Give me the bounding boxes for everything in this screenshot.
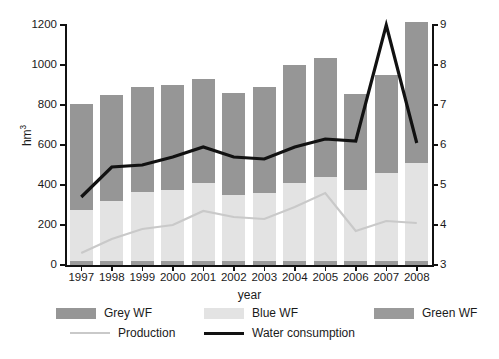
bar-segment-green-wf[interactable] [314, 261, 337, 265]
bar-segment-green-wf[interactable] [131, 261, 154, 265]
bar-segment-green-wf[interactable] [100, 261, 123, 265]
bar-segment-grey-wf[interactable] [161, 85, 184, 190]
bar-segment-blue-wf[interactable] [344, 190, 367, 261]
bar-segment-blue-wf[interactable] [222, 195, 245, 261]
bar-group[interactable] [70, 25, 93, 265]
x-axis-line [65, 265, 434, 267]
legend-row-swatches: Grey WFBlue WFGreen WF [56, 306, 456, 326]
bar-segment-green-wf[interactable] [192, 261, 215, 265]
y-axis-left-tick [60, 224, 65, 226]
y-axis-right-tick [433, 184, 438, 186]
y-axis-right-tick-label: 4 [440, 219, 446, 230]
bar-segment-blue-wf[interactable] [70, 210, 93, 261]
y-axis-right-tick [433, 24, 438, 26]
bar-segment-grey-wf[interactable] [131, 87, 154, 192]
y-axis-right-tick [433, 104, 438, 106]
y-axis-right-tick [433, 144, 438, 146]
y-axis-left-title-text: hm [20, 129, 34, 146]
bar-segment-green-wf[interactable] [375, 261, 398, 265]
y-axis-right-tick-label: 5 [440, 179, 446, 190]
y-axis-left-tick-label: 0 [0, 259, 57, 270]
bar-segment-grey-wf[interactable] [405, 22, 428, 163]
bar-segment-blue-wf[interactable] [131, 192, 154, 261]
bar-segment-green-wf[interactable] [70, 261, 93, 265]
bar-segment-grey-wf[interactable] [192, 79, 215, 183]
bar-segment-blue-wf[interactable] [100, 201, 123, 261]
bar-group[interactable] [283, 25, 306, 265]
bar-segment-blue-wf[interactable] [405, 163, 428, 261]
x-axis-title: year [0, 288, 499, 302]
bar-group[interactable] [253, 25, 276, 265]
legend-item-green-wf[interactable]: Green WF [374, 306, 477, 320]
legend-item-grey-wf[interactable]: Grey WF [56, 306, 152, 320]
legend-label: Blue WF [252, 306, 298, 320]
y-axis-left-tick-label: 400 [0, 179, 57, 190]
bar-segment-green-wf[interactable] [253, 261, 276, 265]
y-axis-left-title: hm3 [19, 106, 34, 166]
bar-group[interactable] [344, 25, 367, 265]
legend-item-water-consumption[interactable]: Water consumption [204, 326, 355, 340]
bar-segment-green-wf[interactable] [222, 261, 245, 265]
bar-segment-grey-wf[interactable] [344, 94, 367, 190]
y-axis-left-tick [60, 64, 65, 66]
bar-segment-blue-wf[interactable] [161, 190, 184, 261]
legend-label: Production [118, 326, 175, 340]
bar-group[interactable] [405, 25, 428, 265]
bar-group[interactable] [161, 25, 184, 265]
y-axis-right-tick [433, 264, 438, 266]
bar-group[interactable] [222, 25, 245, 265]
bar-segment-grey-wf[interactable] [375, 75, 398, 173]
bar-segment-grey-wf[interactable] [314, 58, 337, 177]
bar-segment-grey-wf[interactable] [70, 104, 93, 210]
bar-segment-blue-wf[interactable] [253, 193, 276, 261]
plot-area [66, 25, 432, 265]
x-axis-tick-label: 2008 [397, 272, 437, 283]
y-axis-left-tick [60, 24, 65, 26]
y-axis-right-tick [433, 64, 438, 66]
chart-legend: Grey WFBlue WFGreen WF ProductionWater c… [56, 306, 456, 346]
y-axis-left-tick [60, 184, 65, 186]
bar-segment-green-wf[interactable] [161, 261, 184, 265]
bar-segment-blue-wf[interactable] [192, 183, 215, 261]
y-axis-right-tick-label: 6 [440, 139, 446, 150]
legend-label: Green WF [422, 306, 477, 320]
y-axis-left-tick [60, 104, 65, 106]
legend-row-lines: ProductionWater consumption [56, 326, 456, 346]
bar-segment-grey-wf[interactable] [253, 87, 276, 193]
bar-segment-grey-wf[interactable] [222, 93, 245, 195]
legend-swatch [204, 308, 244, 319]
y-axis-left-tick-label: 1000 [0, 59, 57, 70]
bar-group[interactable] [192, 25, 215, 265]
chart-container: 020040060080010001200 3456789 1997199819… [0, 0, 499, 359]
legend-item-blue-wf[interactable]: Blue WF [204, 306, 298, 320]
y-axis-right-tick [433, 224, 438, 226]
bar-group[interactable] [131, 25, 154, 265]
y-axis-right-tick-label: 7 [440, 99, 446, 110]
y-axis-left-tick [60, 264, 65, 266]
bar-segment-green-wf[interactable] [405, 261, 428, 265]
bar-group[interactable] [375, 25, 398, 265]
legend-item-production[interactable]: Production [70, 326, 175, 340]
legend-swatch [374, 308, 414, 319]
legend-label: Grey WF [104, 306, 152, 320]
bar-segment-blue-wf[interactable] [283, 183, 306, 261]
bar-segment-blue-wf[interactable] [314, 177, 337, 261]
y-axis-right-tick-label: 9 [440, 19, 446, 30]
y-axis-left-tick [60, 144, 65, 146]
bar-segment-grey-wf[interactable] [100, 95, 123, 201]
y-axis-left-tick-label: 200 [0, 219, 57, 230]
bar-group[interactable] [314, 25, 337, 265]
bar-group[interactable] [100, 25, 123, 265]
bar-segment-grey-wf[interactable] [283, 65, 306, 183]
bar-segment-green-wf[interactable] [344, 261, 367, 265]
y-axis-left-title-sup: 3 [19, 125, 28, 130]
bar-segment-blue-wf[interactable] [375, 173, 398, 261]
bar-segment-green-wf[interactable] [283, 261, 306, 265]
y-axis-right-tick-label: 3 [440, 259, 446, 270]
legend-label: Water consumption [252, 326, 355, 340]
legend-swatch [56, 308, 96, 319]
y-axis-right-tick-label: 8 [440, 59, 446, 70]
y-axis-left-tick-label: 1200 [0, 19, 57, 30]
